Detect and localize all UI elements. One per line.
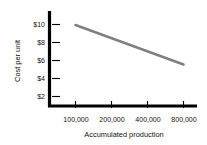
y-axis-title: Cost per unit (13, 40, 22, 82)
experience-curve-chart: $10 $8 $6 $4 $2 100,000 200,000 400,000 … (0, 0, 207, 145)
chart-screenshot: $10 $8 $6 $4 $2 100,000 200,000 400,000 … (0, 0, 207, 145)
x-tick-label-400000: 400,000 (135, 116, 160, 123)
x-tick-label-800000: 800,000 (171, 116, 196, 123)
y-tick-label-4: $4 (37, 75, 45, 82)
chart-canvas: $10 $8 $6 $4 $2 100,000 200,000 400,000 … (0, 0, 207, 145)
series-line-experience-curve (76, 25, 184, 65)
x-tick-label-200000: 200,000 (99, 116, 124, 123)
x-axis-title: Accumulated production (84, 130, 163, 139)
y-tick-label-2: $2 (37, 93, 45, 100)
y-tick-label-10: $10 (33, 21, 45, 28)
y-tick-label-6: $6 (37, 57, 45, 64)
x-tick-label-100000: 100,000 (63, 116, 88, 123)
y-tick-label-8: $8 (37, 39, 45, 46)
